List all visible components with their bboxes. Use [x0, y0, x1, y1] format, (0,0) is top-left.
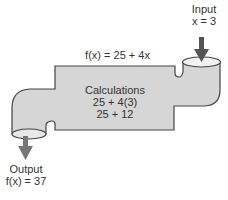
input-title: Input: [186, 3, 222, 15]
calculation-step-1: 25 + 4(3): [80, 96, 150, 108]
input-value: x = 3: [186, 15, 222, 27]
output-label: Output f(x) = 37: [3, 163, 49, 187]
output-arrow-icon: [18, 136, 33, 160]
input-label: Input x = 3: [186, 3, 222, 27]
output-value: f(x) = 37: [3, 175, 49, 187]
calculations-title: Calculations: [80, 84, 150, 96]
calculation-step-2: 25 + 12: [80, 108, 150, 120]
output-title: Output: [3, 163, 49, 175]
function-label: f(x) = 25 + 4x: [80, 49, 155, 61]
calculations-block: Calculations 25 + 4(3) 25 + 12: [80, 84, 150, 120]
output-opening: [12, 129, 46, 139]
